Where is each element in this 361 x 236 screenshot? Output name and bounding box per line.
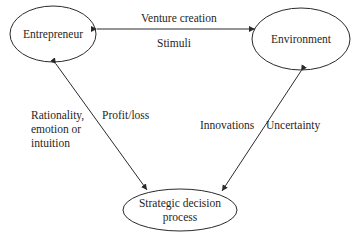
stimuli-label: Stimuli [157,36,191,50]
profit-loss-label: Profit/loss [102,108,149,122]
rationality-label: Rationality, emotion or intuition [31,108,84,150]
strategic-decision-label-line1: Strategic decision [123,196,237,210]
entrepreneur-label: Entrepreneur [10,27,96,41]
strategic-decision-label-line2: process [123,210,237,224]
strategic-decision-label: Strategic decision process [123,196,237,224]
venture-creation-label: Venture creation [141,11,217,25]
rationality-label-line3: intuition [31,136,84,150]
rationality-label-line2: emotion or [31,122,84,136]
rationality-label-line1: Rationality, [31,108,84,122]
innovations-label: Innovations [200,118,254,132]
environment-label: Environment [252,32,350,46]
uncertainty-label: Uncertainty [266,118,320,132]
